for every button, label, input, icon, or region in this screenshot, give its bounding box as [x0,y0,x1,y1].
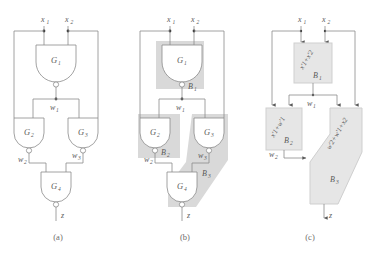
gate-g1-bubble [53,82,58,87]
gate-g2-bubble [26,148,31,153]
gate-g3-label: G [78,127,84,137]
panel-b-gate-g1-label: G [177,55,183,65]
gate-g1-label: G [51,55,57,65]
panel-b: x 1 x 2 G 1 B 1 w 1 G 2 B 2 G 3 [138,15,228,221]
panel-c-b2-label: B [284,136,289,145]
panel-b-x1-label: x [166,15,171,24]
panel-b-w2-sub: 2 [150,159,153,165]
gate-g2-label: G [24,127,30,137]
panel-c-x1-sub: 1 [304,19,307,25]
panel-a: x 1 x 2 G 1 w 1 G 2 G 3 [14,15,98,221]
panel-c-w1-sub: 1 [313,103,316,109]
panel-b-gate-g3-label: G [204,127,210,137]
block-b2-label: B [161,148,166,157]
panel-c-b1-label: B [313,71,318,80]
panel-c-w2-wire [284,150,306,158]
panel-b-w3-sub: 3 [203,155,207,161]
panel-b-gate-g4-bubble [179,202,184,207]
panel-b-x1-sub: 1 [173,19,176,25]
panel-b-x2-label: x [190,15,195,24]
panel-a-w3-sub: 3 [77,155,81,161]
panel-b-gate-g4-sub: 4 [184,186,187,192]
block-b3-sub: 3 [207,173,211,179]
panel-b-gate-g4-label: G [177,181,183,191]
gate-g4-label: G [51,181,57,191]
block-b1-label: B [188,82,193,91]
figure-svg: x 1 x 2 G 1 w 1 G 2 G 3 [0,0,378,257]
caption-b: (b) [165,232,205,242]
panel-a-x2-label: x [64,15,69,24]
panel-a-x1-sub: 1 [47,19,50,25]
panel-b-gate-g3-sub: 3 [210,132,214,138]
panel-c-b2-sub: 2 [290,140,293,146]
panel-b-w1-sub: 1 [182,107,185,113]
panel-c-x1-label: x [297,15,302,24]
panel-b-gate-g1-sub: 1 [184,60,187,66]
panel-a-z-label: z [60,211,65,220]
panel-c-x2-label: x [321,15,326,24]
gate-g3-bubble [80,148,85,153]
caption-c: (c) [290,232,330,242]
gate-g4-sub: 4 [58,186,61,192]
panel-a-w1-sub: 1 [56,107,59,113]
panel-c-b1-sub: 1 [319,75,322,81]
panel-a-w2-sub: 2 [24,159,27,165]
panel-b-gate-g2-sub: 2 [157,132,160,138]
panel-c-b3-label: B [330,175,335,184]
block-b1-sub: 1 [194,86,197,92]
panel-a-x2-sub: 2 [71,19,74,25]
gate-g2-sub: 2 [31,132,34,138]
figure-container: x 1 x 2 G 1 w 1 G 2 G 3 [0,0,378,257]
panel-b-gate-g2-bubble [152,148,157,153]
panel-a-x1-label: x [40,15,45,24]
panel-b-gate-g2-label: G [150,127,156,137]
block-b3-label: B [202,169,207,178]
panel-c-z-label: z [328,211,333,220]
panel-b-gate-g3-bubble [206,148,211,153]
block-b2-sub: 2 [167,152,170,158]
panel-c-x2-sub: 2 [328,19,331,25]
panel-b-x2-sub: 2 [197,19,200,25]
gate-g1-sub: 1 [58,60,61,66]
panel-b-gate-g1-bubble [179,82,184,87]
panel-c-w2-sub: 2 [275,154,278,160]
panel-b-z-label: z [186,211,191,220]
gate-g4-bubble [53,202,58,207]
panel-c: x 1 x 2 x'1+x'2 B 1 w 1 x'1+w'1 B 2 [266,15,362,220]
panel-c-b3-sub: 3 [335,179,339,185]
caption-a: (a) [38,232,78,242]
gate-g3-sub: 3 [84,132,88,138]
panel-c-block-b3 [310,108,362,204]
